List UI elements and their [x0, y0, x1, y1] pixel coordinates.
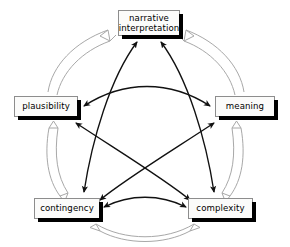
edge-inner-narrative-contingency [84, 42, 137, 192]
node-shadow-bottom [38, 218, 103, 222]
edge-inner-plausibility-complexity [76, 123, 190, 200]
node-shadow-bottom [122, 35, 183, 39]
edge-outer-plausibility-narrative [48, 30, 116, 95]
node-contingency[interactable]: contingency [34, 198, 100, 219]
node-meaning[interactable]: meaning [215, 96, 275, 117]
node-label: meaning [224, 101, 266, 111]
node-shadow-bottom [192, 218, 256, 222]
diagram-canvas: narrative interpretation plausibility me… [0, 0, 290, 247]
node-shadow-bottom [219, 116, 278, 120]
edge-outer-contingency-complexity [90, 224, 200, 242]
edge-outer-meaning-narrative [178, 30, 244, 95]
node-narrative-interpretation[interactable]: narrative interpretation [118, 10, 180, 36]
node-complexity[interactable]: complexity [188, 198, 253, 219]
edge-inner-narrative-complexity [161, 42, 214, 192]
edge-outer-plausibility-contingency [47, 121, 68, 202]
edge-inner-meaning-contingency [100, 123, 214, 200]
node-label: narrative interpretation [117, 13, 182, 34]
node-label: plausibility [20, 101, 72, 111]
node-label: complexity [194, 203, 246, 213]
inner-arrow-group [76, 42, 214, 207]
node-shadow-bottom [18, 116, 81, 120]
node-plausibility[interactable]: plausibility [14, 96, 78, 117]
edge-inner-contingency-complexity [104, 197, 186, 207]
edge-inner-plausibility-meaning [84, 87, 210, 107]
edge-outer-meaning-complexity [222, 121, 243, 202]
node-label: contingency [38, 203, 96, 213]
